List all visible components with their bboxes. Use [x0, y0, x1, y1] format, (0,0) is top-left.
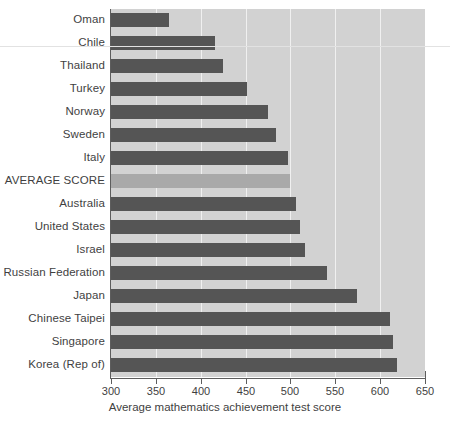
- bar-thailand: [111, 59, 223, 73]
- bar-row: Singapore: [0, 331, 450, 353]
- y-axis-line: [110, 9, 111, 379]
- category-label-italy: Italy: [83, 151, 105, 163]
- bar-united-states: [111, 220, 300, 234]
- bar-chinese-taipei: [111, 312, 390, 326]
- bar-sweden: [111, 128, 276, 142]
- category-label-turkey: Turkey: [70, 82, 105, 94]
- bar-row: Japan: [0, 285, 450, 307]
- bar-russian-federation: [111, 266, 327, 280]
- category-label-chile: Chile: [78, 36, 105, 48]
- category-label-sweden: Sweden: [63, 128, 105, 140]
- x-axis-line: [110, 378, 426, 379]
- tick-label-350: 350: [147, 385, 165, 397]
- bar-row: Chile: [0, 32, 450, 54]
- bar-row: Sweden: [0, 124, 450, 146]
- tick-label-400: 400: [192, 385, 210, 397]
- category-label-oman: Oman: [73, 13, 105, 25]
- tick-label-600: 600: [371, 385, 389, 397]
- bar-row: Israel: [0, 239, 450, 261]
- category-label-norway: Norway: [65, 105, 105, 117]
- bar-korea-rep-of: [111, 358, 397, 372]
- bar-singapore: [111, 335, 393, 349]
- bar-row: United States: [0, 216, 450, 238]
- bar-row: Russian Federation: [0, 262, 450, 284]
- bar-row: Korea (Rep of): [0, 354, 450, 376]
- bar-italy: [111, 151, 288, 165]
- x-axis-title: Average mathematics achievement test sco…: [0, 401, 450, 413]
- category-label-israel: Israel: [76, 243, 105, 255]
- bar-row: Italy: [0, 147, 450, 169]
- x-axis-right-cap: [425, 371, 426, 379]
- bar-row: Turkey: [0, 78, 450, 100]
- bar-row: AVERAGE SCORE: [0, 170, 450, 192]
- category-label-russian-federation: Russian Federation: [3, 266, 105, 278]
- bar-row: Australia: [0, 193, 450, 215]
- bar-israel: [111, 243, 305, 257]
- tick-label-550: 550: [326, 385, 344, 397]
- category-label-japan: Japan: [73, 289, 105, 301]
- category-label-thailand: Thailand: [60, 59, 105, 71]
- category-label-korea-rep-of: Korea (Rep of): [28, 358, 105, 370]
- bar-row: Thailand: [0, 55, 450, 77]
- tick-label-500: 500: [281, 385, 299, 397]
- tick-label-450: 450: [237, 385, 255, 397]
- bar-average-score: [111, 174, 290, 188]
- bar-row: Oman: [0, 9, 450, 31]
- category-label-singapore: Singapore: [52, 335, 105, 347]
- category-label-chinese-taipei: Chinese Taipei: [28, 312, 105, 324]
- bar-chart: 300350400450500550600650 OmanChileThaila…: [0, 0, 450, 426]
- bar-norway: [111, 105, 268, 119]
- tick-label-300: 300: [102, 385, 120, 397]
- bar-oman: [111, 13, 169, 27]
- category-label-united-states: United States: [35, 220, 105, 232]
- bar-turkey: [111, 82, 247, 96]
- bar-row: Chinese Taipei: [0, 308, 450, 330]
- bar-japan: [111, 289, 357, 303]
- tick-label-650: 650: [416, 385, 434, 397]
- bar-australia: [111, 197, 296, 211]
- category-label-australia: Australia: [59, 197, 105, 209]
- bar-row: Norway: [0, 101, 450, 123]
- bar-chile: [111, 36, 215, 50]
- category-label-average-score: AVERAGE SCORE: [5, 174, 105, 186]
